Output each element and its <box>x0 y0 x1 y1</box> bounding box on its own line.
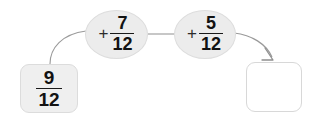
denominator: 12 <box>199 34 223 53</box>
numerator: 7 <box>115 14 129 33</box>
operation-content: + 5 12 <box>187 14 223 53</box>
connector-op2-to-answer <box>234 33 272 57</box>
plus-icon: + <box>187 25 197 42</box>
plus-icon: + <box>99 25 109 42</box>
denominator: 12 <box>36 89 61 109</box>
fraction-seven-twelfths: 7 12 <box>110 14 134 53</box>
operation-content: + 7 12 <box>99 14 135 53</box>
connector-start-to-op1 <box>50 31 86 64</box>
operation-oval-add-five-twelfths: + 5 12 <box>174 10 236 59</box>
fraction-addition-diagram: 9 12 + 7 12 + 5 12 <box>0 0 313 125</box>
start-value-box: 9 12 <box>20 64 78 113</box>
fraction-five-twelfths: 5 12 <box>199 14 223 53</box>
numerator: 5 <box>204 14 218 33</box>
fraction-nine-twelfths: 9 12 <box>36 68 62 109</box>
answer-box[interactable] <box>246 62 302 112</box>
numerator: 9 <box>42 68 57 88</box>
denominator: 12 <box>110 34 134 53</box>
operation-oval-add-seven-twelfths: + 7 12 <box>85 10 148 59</box>
